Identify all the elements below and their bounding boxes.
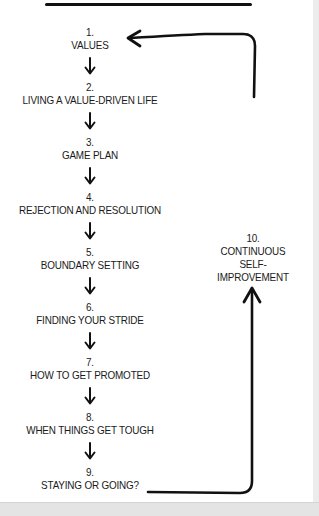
loop-arrow-icon bbox=[0, 0, 319, 515]
